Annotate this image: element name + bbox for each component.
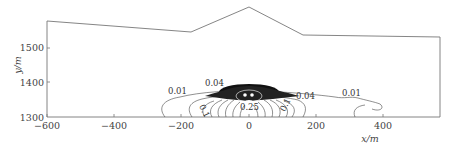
- contour-label: 0.01: [342, 88, 361, 98]
- contour-label: 0.25: [240, 102, 259, 112]
- contour-chart: 0.01 0.04 0.1 0.25 0.1 0.04 0.01 −600 −4…: [0, 0, 455, 150]
- y-tick-label: 1400: [20, 77, 44, 88]
- contour-label: 0.1: [278, 96, 293, 112]
- x-tick-label: −200: [168, 120, 194, 131]
- contour-label: 0.04: [296, 91, 315, 101]
- x-tick-label: −400: [101, 120, 127, 131]
- x-tick-label: 200: [307, 120, 325, 131]
- y-axis-label: y/m: [12, 56, 23, 75]
- source-point-left: [243, 93, 247, 97]
- contour-label: 0.01: [168, 86, 187, 96]
- source-point-right: [250, 93, 254, 97]
- x-tick-label: 400: [374, 120, 392, 131]
- x-tick-labels: −600 −400 −200 0 200 400: [34, 120, 392, 131]
- y-tick-label: 1300: [20, 112, 44, 123]
- y-tick-labels: 1300 1400 1500: [20, 42, 44, 123]
- x-tick-label: 0: [246, 120, 252, 131]
- contour-label: 0.04: [205, 78, 224, 88]
- x-axis-label: x/m: [361, 133, 379, 144]
- y-tick-label: 1500: [20, 42, 44, 53]
